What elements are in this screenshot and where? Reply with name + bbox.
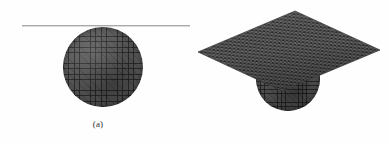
- meshed-sphere-a: [63, 27, 143, 107]
- plate-shading: [198, 11, 380, 91]
- meshed-plane-svg: [195, 0, 389, 144]
- panel-b: (b): [195, 0, 389, 144]
- sphere-shading-a: [63, 27, 143, 107]
- meshed-plane-b: [195, 0, 389, 144]
- tangent-line: [22, 25, 190, 26]
- caption-a: (a): [78, 119, 118, 129]
- figure-container: (a): [0, 0, 389, 144]
- panel-a: (a): [0, 0, 195, 144]
